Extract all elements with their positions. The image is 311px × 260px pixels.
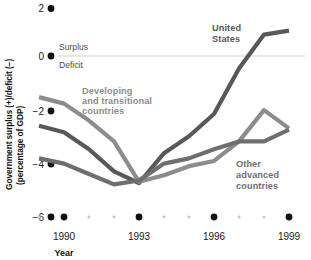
x-tick-dot-1989 (38, 216, 41, 219)
x-tick-dot-1992 (113, 216, 116, 219)
y-tick-dot-2 (48, 5, 55, 12)
series-label-united-states-line2: States (212, 34, 240, 44)
x-tick-dot-1997 (238, 216, 241, 219)
series-label-other-advanced-line3: countries (236, 181, 278, 191)
series-label-developing-line1: Developing (82, 86, 133, 96)
x-tick-dot-1991 (88, 216, 91, 219)
x-tick-dot-1996 (211, 214, 218, 221)
y-tick-dot-minus6 (48, 214, 55, 221)
y-tick-label-0: 0 (38, 51, 44, 62)
series-label-developing-line2: and transitional (82, 96, 152, 106)
y-axis-title-line1: Government surplus (+)/deficit (−) (4, 59, 14, 190)
deficit-annotation: Deficit (59, 60, 83, 70)
x-tick-label-1999: 1999 (278, 231, 301, 242)
series-label-united-states-line1: United (212, 23, 241, 33)
series-label-developing-line3: countries (82, 106, 124, 116)
series-label-other-advanced-line2: advanced (236, 170, 279, 180)
y-tick-label-2: 2 (38, 3, 44, 14)
surplus-annotation: Surplus (59, 42, 88, 52)
y-tick-label-minus2: −2 (33, 106, 45, 117)
y-tick-dot-0 (48, 53, 55, 60)
x-tick-label-1996: 1996 (203, 231, 226, 242)
series-label-united-states: United States (212, 23, 241, 44)
x-tick-dot-1995 (188, 216, 191, 219)
x-tick-dot-1990 (61, 214, 68, 221)
x-axis-title: Year (54, 248, 74, 258)
x-tick-dot-1994 (163, 216, 166, 219)
y-axis-title-line2: (percentage of GDP) (15, 106, 25, 185)
x-tick-label-1993: 1993 (128, 231, 151, 242)
x-tick-dot-1999 (286, 214, 293, 221)
x-tick-label-1990: 1990 (53, 231, 76, 242)
x-tick-dot-1993 (136, 214, 143, 221)
chart-background (0, 0, 311, 260)
series-label-other-advanced-line1: Other (236, 159, 261, 169)
chart-figure: Government surplus (+)/deficit (−) (perc… (0, 0, 311, 260)
x-tick-dot-1998 (263, 216, 266, 219)
y-tick-dot-minus2 (48, 108, 55, 115)
